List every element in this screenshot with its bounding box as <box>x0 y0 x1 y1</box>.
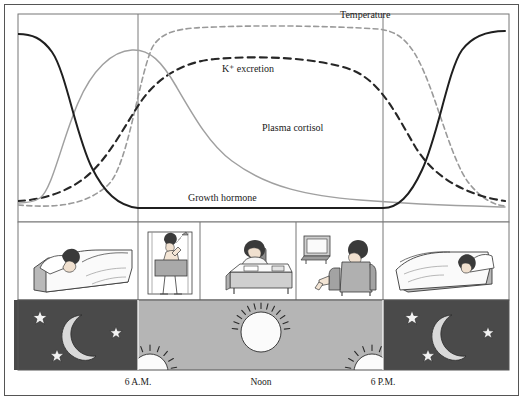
x-tick-dusk: 6 P.M. <box>371 377 396 387</box>
curve-label-growth-hormone: Growth hormone <box>188 192 257 203</box>
curve-label-k-excretion: K⁺ excretion <box>222 63 274 74</box>
circadian-rhythm-figure: TemperatureK⁺ excretionPlasma cortisolGr… <box>0 0 523 400</box>
x-tick-dawn: 6 A.M. <box>125 377 152 387</box>
person-taking-shower-icon <box>148 232 192 294</box>
curve-label-plasma-cortisol: Plasma cortisol <box>262 122 324 133</box>
x-axis-tick-labels: 6 A.M.Noon6 P.M. <box>125 377 396 387</box>
plot-area: TemperatureK⁺ excretionPlasma cortisolGr… <box>18 9 509 222</box>
x-tick-noon: Noon <box>250 377 271 387</box>
figure-canvas: TemperatureK⁺ excretionPlasma cortisolGr… <box>0 0 523 400</box>
sky-panel-night-left <box>14 300 138 370</box>
activity-panel-row <box>18 222 509 300</box>
plot-frame <box>18 14 509 222</box>
curve-label-temperature: Temperature <box>340 9 391 20</box>
